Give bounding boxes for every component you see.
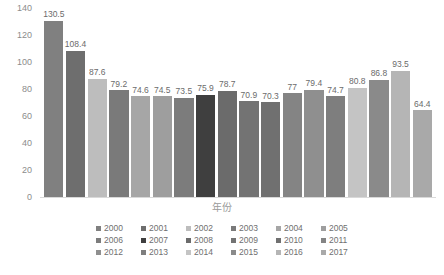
bar-slot: 78.7 <box>218 8 237 197</box>
legend-swatch-icon <box>141 238 146 243</box>
bar-2008[interactable] <box>218 91 237 197</box>
bar-slot: 70.3 <box>261 8 280 197</box>
bar-slot: 70.9 <box>239 8 258 197</box>
legend-item-2015[interactable]: 2015 <box>231 246 276 258</box>
legend-label: 2004 <box>284 224 303 233</box>
legend-swatch-icon <box>96 238 101 243</box>
bar-2017[interactable] <box>413 110 432 197</box>
legend-item-2004[interactable]: 2004 <box>276 222 321 234</box>
legend-item-2006[interactable]: 2006 <box>96 234 141 246</box>
bar-slot: 74.5 <box>153 8 172 197</box>
legend-item-2007[interactable]: 2007 <box>141 234 186 246</box>
bar-value-label: 80.8 <box>349 77 366 86</box>
y-axis-tick: 20 <box>22 166 32 175</box>
legend-label: 2010 <box>284 236 303 245</box>
y-axis-tick: 60 <box>22 112 32 121</box>
legend-swatch-icon <box>276 250 281 255</box>
y-axis-tick: 140 <box>17 4 32 13</box>
bar-2014[interactable] <box>348 88 367 197</box>
bar-chart: 140120100806040200 130.5108.487.679.274.… <box>0 0 444 275</box>
legend-swatch-icon <box>321 238 326 243</box>
bar-value-label: 74.7 <box>327 86 344 95</box>
legend-item-2003[interactable]: 2003 <box>231 222 276 234</box>
plot-area: 130.5108.487.679.274.674.573.575.978.770… <box>40 8 436 197</box>
legend-item-2012[interactable]: 2012 <box>96 246 141 258</box>
legend-label: 2009 <box>239 236 258 245</box>
legend-item-2002[interactable]: 2002 <box>186 222 231 234</box>
legend-label: 2011 <box>329 236 347 245</box>
bar-2015[interactable] <box>369 80 388 197</box>
bar-2007[interactable] <box>196 95 215 197</box>
legend-label: 2003 <box>239 224 258 233</box>
bar-value-label: 70.9 <box>241 91 258 100</box>
bar-slot: 64.4 <box>413 8 432 197</box>
legend-label: 2015 <box>239 248 258 257</box>
bar-value-label: 73.5 <box>176 87 193 96</box>
bar-value-label: 93.5 <box>392 60 409 69</box>
legend-label: 2006 <box>104 236 123 245</box>
legend-label: 2007 <box>149 236 168 245</box>
legend-item-2009[interactable]: 2009 <box>231 234 276 246</box>
legend-item-2014[interactable]: 2014 <box>186 246 231 258</box>
bar-value-label: 77 <box>287 83 296 92</box>
legend-label: 2005 <box>329 224 348 233</box>
y-axis-tick: 40 <box>22 139 32 148</box>
legend-swatch-icon <box>186 226 191 231</box>
legend-swatch-icon <box>186 238 191 243</box>
bar-2005[interactable] <box>153 96 172 197</box>
bar-value-label: 86.8 <box>371 69 388 78</box>
legend-item-2000[interactable]: 2000 <box>96 222 141 234</box>
bar-2003[interactable] <box>109 90 128 197</box>
bar-slot: 77 <box>283 8 302 197</box>
bar-2012[interactable] <box>304 90 323 197</box>
bar-2013[interactable] <box>326 96 345 197</box>
legend-label: 2002 <box>194 224 213 233</box>
legend-item-2005[interactable]: 2005 <box>321 222 366 234</box>
bar-2001[interactable] <box>66 51 85 197</box>
bar-2009[interactable] <box>239 101 258 197</box>
legend-label: 2013 <box>149 248 168 257</box>
bar-slot: 87.6 <box>88 8 107 197</box>
legend-swatch-icon <box>96 250 101 255</box>
legend-swatch-icon <box>231 226 236 231</box>
legend-item-2008[interactable]: 2008 <box>186 234 231 246</box>
bar-value-label: 79.2 <box>111 80 128 89</box>
legend-swatch-icon <box>141 250 146 255</box>
legend-item-2011[interactable]: 2011 <box>321 234 366 246</box>
bar-2016[interactable] <box>391 71 410 197</box>
bar-value-label: 108.4 <box>65 40 86 49</box>
bar-2010[interactable] <box>261 102 280 197</box>
legend-item-2017[interactable]: 2017 <box>321 246 366 258</box>
bar-2000[interactable] <box>44 21 63 197</box>
bar-value-label: 74.5 <box>154 86 171 95</box>
legend-item-2001[interactable]: 2001 <box>141 222 186 234</box>
legend-item-2013[interactable]: 2013 <box>141 246 186 258</box>
y-axis-tick: 100 <box>17 58 32 67</box>
x-axis-title: 年份 <box>0 199 444 214</box>
bar-value-label: 64.4 <box>414 100 431 109</box>
legend-item-2010[interactable]: 2010 <box>276 234 321 246</box>
legend-swatch-icon <box>321 250 326 255</box>
y-axis-tick: 80 <box>22 85 32 94</box>
bar-2004[interactable] <box>131 96 150 197</box>
bar-2006[interactable] <box>174 98 193 197</box>
bar-2002[interactable] <box>88 79 107 197</box>
bar-slot: 130.5 <box>44 8 63 197</box>
bar-2011[interactable] <box>283 93 302 197</box>
bar-series: 130.5108.487.679.274.674.573.575.978.770… <box>40 8 436 197</box>
y-axis: 140120100806040200 <box>0 8 36 197</box>
legend-swatch-icon <box>141 226 146 231</box>
legend-item-2016[interactable]: 2016 <box>276 246 321 258</box>
bar-slot: 93.5 <box>391 8 410 197</box>
legend-label: 2000 <box>104 224 123 233</box>
bar-slot: 86.8 <box>369 8 388 197</box>
legend-swatch-icon <box>276 226 281 231</box>
legend-label: 2016 <box>284 248 303 257</box>
legend-swatch-icon <box>231 250 236 255</box>
x-axis-line <box>40 197 436 198</box>
legend-swatch-icon <box>186 250 191 255</box>
legend-label: 2017 <box>329 248 348 257</box>
bar-slot: 73.5 <box>174 8 193 197</box>
bar-value-label: 78.7 <box>219 80 236 89</box>
bar-slot: 108.4 <box>66 8 85 197</box>
